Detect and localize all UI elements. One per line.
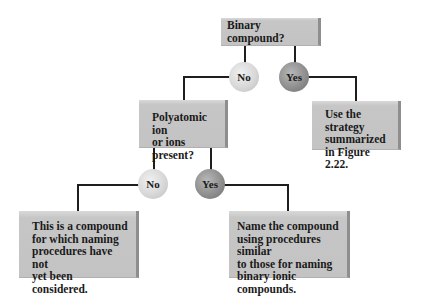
branch-no-binary: No	[229, 62, 259, 92]
result-name-compound-label: Name the compound using procedures simil…	[237, 220, 339, 295]
connector-yes-to-result	[355, 76, 357, 102]
decision-polyatomic-ions-label: Polyatomic ion or ions present?	[152, 111, 217, 161]
branch-no-label: No	[237, 71, 250, 83]
connector-yes-horizontal	[308, 76, 356, 78]
decision-binary-compound-label: Binary compound?	[227, 19, 312, 44]
branch-yes-label: Yes	[202, 178, 218, 190]
decision-binary-compound: Binary compound?	[221, 18, 321, 46]
connector-no-horizontal	[183, 76, 230, 78]
connector-no-to-polyatomic	[183, 76, 185, 101]
decision-polyatomic-ions: Polyatomic ion or ions present?	[139, 100, 228, 148]
result-not-yet-considered-label: This is a compound for which naming proc…	[32, 220, 128, 295]
connector-poly-no-horizontal	[77, 184, 139, 186]
branch-yes-label: Yes	[286, 71, 302, 83]
connector-poly-no-to-result	[77, 184, 79, 212]
connector-poly-yes-horizontal	[224, 184, 288, 186]
result-not-yet-considered: This is a compound for which naming proc…	[19, 211, 139, 278]
branch-no-label: No	[146, 178, 159, 190]
result-use-strategy: Use the strategy summarized in Figure 2.…	[312, 101, 401, 150]
branch-yes-polyatomic: Yes	[195, 169, 225, 199]
result-use-strategy-label: Use the strategy summarized in Figure 2.…	[325, 108, 390, 171]
result-name-compound: Name the compound using procedures simil…	[229, 211, 350, 278]
branch-yes-binary: Yes	[279, 62, 309, 92]
connector-poly-yes-to-result	[287, 184, 289, 212]
branch-no-polyatomic: No	[138, 169, 168, 199]
